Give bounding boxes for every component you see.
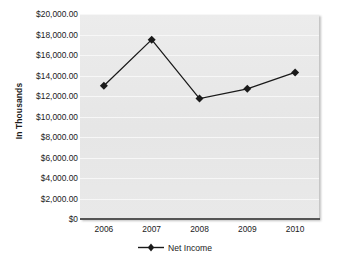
legend-label-net-income: Net Income <box>168 243 212 253</box>
y-tick-label: $14,000.00 <box>6 72 78 80</box>
legend-entry-net-income: Net Income <box>138 242 212 253</box>
net-income-line-chart: In Thousands $20,000.00$18,000.00$16,000… <box>0 0 350 260</box>
legend-line-marker-icon <box>138 242 164 253</box>
x-axis-tick-labels: 20062007200820092010 <box>80 224 319 238</box>
y-tick-label: $18,000.00 <box>6 31 78 39</box>
y-tick-label: $16,000.00 <box>6 51 78 59</box>
data-point-marker <box>243 85 251 93</box>
data-point-marker <box>291 68 299 76</box>
series-line-net-income <box>104 40 295 99</box>
y-tick-label: $6,000.00 <box>6 154 78 162</box>
y-tick-label: $12,000.00 <box>6 92 78 100</box>
y-tick-label: $10,000.00 <box>6 113 78 121</box>
y-tick-label: $0 <box>6 215 78 223</box>
x-axis-line <box>80 218 320 220</box>
x-tick-label: 2006 <box>82 224 126 234</box>
y-tick-label: $20,000.00 <box>6 10 78 18</box>
x-tick-label: 2010 <box>273 224 317 234</box>
y-axis-tick-labels: $20,000.00$18,000.00$16,000.00$14,000.00… <box>6 0 78 260</box>
y-tick-label: $8,000.00 <box>6 133 78 141</box>
x-tick-label: 2009 <box>225 224 269 234</box>
x-tick-label: 2008 <box>178 224 222 234</box>
y-tick-label: $2,000.00 <box>6 195 78 203</box>
chart-legend: Net Income <box>0 242 350 253</box>
series-plot <box>80 14 319 219</box>
plot-area <box>80 14 319 219</box>
y-tick-label: $4,000.00 <box>6 174 78 182</box>
x-tick-label: 2007 <box>130 224 174 234</box>
